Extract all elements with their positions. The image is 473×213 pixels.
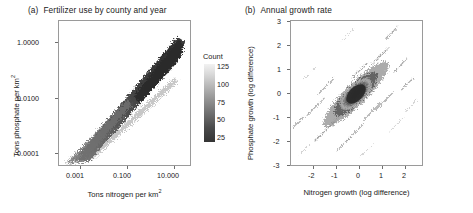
panel-b-xtick-label-m2: -2 xyxy=(308,171,314,180)
panel-a-xtick-label-2: 0.100 xyxy=(113,171,131,180)
panel-b-ytick-label-3: 3 xyxy=(277,17,281,26)
panel-a: (a)Fertilizer use by county and year xyxy=(0,0,237,213)
panel-b-xtick-mark-1 xyxy=(382,166,383,169)
panel-b-y-axis-label: Phosphate growth (log difference) xyxy=(246,46,255,160)
panel-a-xtick-mark-1 xyxy=(80,166,81,169)
panel-b-xtick-label-2: 2 xyxy=(402,171,406,180)
panel-b-ytick-label-m1: -1 xyxy=(273,113,279,122)
panel-a-hexbin-cloud xyxy=(59,21,190,165)
panel-a-legend-key-25: 25 xyxy=(217,133,225,142)
panel-a-x-axis-label: Tons nitrogen per km2 xyxy=(58,188,191,199)
panel-a-legend-key-100: 100 xyxy=(217,80,229,89)
panel-a-y-axis-label: Tons phosphate per km2 xyxy=(10,75,21,157)
panel-b-hexbin-cloud xyxy=(291,21,422,165)
panel-a-ytick-label-1: 1.0000 xyxy=(17,38,39,47)
panel-a-title: (a)Fertilizer use by county and year xyxy=(28,5,167,15)
panel-b-xtick-label-0: 0 xyxy=(356,171,360,180)
panel-a-legend-gradient-bar xyxy=(204,64,215,142)
panel-a-ytick-mark-2 xyxy=(55,98,58,99)
panel-a-x-axis-label-text: Tons nitrogen per km xyxy=(88,190,159,199)
panel-b-xtick-label-m1: -1 xyxy=(331,171,337,180)
panel-a-y-axis-label-exponent: 2 xyxy=(10,75,16,78)
panel-a-xtick-mark-2 xyxy=(127,166,128,169)
panel-b-ytick-mark-m3 xyxy=(287,165,290,166)
panel-b-title-text: Annual growth rate xyxy=(260,5,331,15)
panel-a-xtick-label-3: 10.000 xyxy=(157,171,179,180)
panel-b-ytick-label-1: 1 xyxy=(277,65,281,74)
panel-b-xtick-mark-m1 xyxy=(336,166,337,169)
panel-a-xtick-mark-3 xyxy=(174,166,175,169)
panel-b-ytick-label-2: 2 xyxy=(277,41,281,50)
panel-b: (b)Annual growth rate xyxy=(236,0,473,213)
panel-a-xtick-label-1: 0.001 xyxy=(66,171,84,180)
panel-b-tag: (b) xyxy=(245,5,255,15)
panel-a-ytick-mark-1 xyxy=(55,42,58,43)
panel-b-ytick-mark-m2 xyxy=(287,141,290,142)
panel-a-x-axis-label-exponent: 2 xyxy=(158,188,161,194)
panel-b-ytick-label-m2: -2 xyxy=(273,137,279,146)
panel-b-x-axis-label: Nitrogen growth (log difference) xyxy=(290,188,423,197)
panel-b-ytick-label-0: 0 xyxy=(277,89,281,98)
panel-b-ytick-label-m3: -3 xyxy=(273,161,279,170)
panel-a-legend-key-125: 125 xyxy=(217,62,229,71)
panel-b-ytick-mark-1 xyxy=(287,69,290,70)
panel-a-ytick-mark-3 xyxy=(55,153,58,154)
panel-b-plot-area xyxy=(290,20,423,166)
panel-a-y-axis-label-text: Tons phosphate per km xyxy=(12,78,21,157)
panel-b-xtick-mark-2 xyxy=(405,166,406,169)
panel-b-ytick-mark-2 xyxy=(287,45,290,46)
panel-b-ytick-mark-m1 xyxy=(287,117,290,118)
panel-b-title: (b)Annual growth rate xyxy=(245,5,332,15)
panel-b-ytick-mark-0 xyxy=(287,93,290,94)
panel-a-legend-title: Count xyxy=(203,52,223,61)
panel-a-plot-area xyxy=(58,20,191,166)
panel-b-xtick-mark-0 xyxy=(359,166,360,169)
panel-a-legend-key-75: 75 xyxy=(217,98,225,107)
panel-b-xtick-mark-m2 xyxy=(313,166,314,169)
panel-a-legend-key-50: 50 xyxy=(217,115,225,124)
panel-b-ytick-mark-3 xyxy=(287,21,290,22)
panel-b-xtick-label-1: 1 xyxy=(379,171,383,180)
panel-a-title-text: Fertilizer use by county and year xyxy=(43,5,166,15)
panel-a-tag: (a) xyxy=(28,5,38,15)
